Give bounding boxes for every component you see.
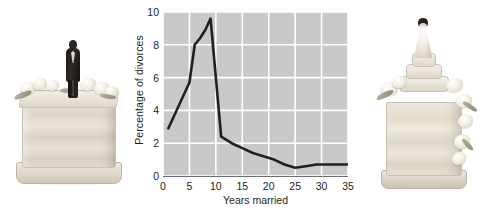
y-tick-label: 0: [153, 170, 159, 182]
plot-area: 0246810 05101520253035: [163, 12, 348, 176]
flower-icon: [452, 152, 466, 165]
x-tick-label: 0: [160, 180, 166, 192]
flower-icon: [458, 114, 473, 128]
flower-icon: [33, 78, 47, 90]
bride-veil: [412, 26, 434, 56]
x-tick-label: 15: [236, 180, 248, 192]
figure: Percentage of divorces 0246810 051015202…: [0, 0, 482, 216]
gridlines: [163, 12, 348, 176]
groom-figurine: [66, 40, 80, 98]
x-tick-label: 35: [342, 180, 354, 192]
bride-cake-photo: [370, 10, 482, 200]
y-tick-label: 8: [153, 39, 159, 51]
y-tick-label: 2: [153, 137, 159, 149]
flower-icon: [446, 78, 463, 92]
groom-legs: [68, 80, 78, 98]
y-axis-title: Percentage of divorces: [133, 15, 145, 165]
y-tick-label: 6: [153, 72, 159, 84]
x-tick-label: 30: [316, 180, 328, 192]
groom-cake-photo: [8, 14, 130, 194]
y-tick-label: 4: [153, 104, 159, 116]
divorce-rate-chart: Percentage of divorces 0246810 051015202…: [120, 6, 360, 210]
cake-body: [386, 102, 462, 176]
x-tick-label: 5: [187, 180, 193, 192]
x-tick-label: 10: [210, 180, 222, 192]
x-axis-title: Years married: [163, 194, 348, 206]
y-tick-label: 10: [147, 6, 159, 18]
x-tick-label: 25: [289, 180, 301, 192]
x-axis-line: [163, 176, 348, 177]
x-tick-label: 20: [263, 180, 275, 192]
plot-svg: [163, 12, 348, 176]
bride-figurine: [411, 18, 435, 58]
cake-body: [22, 100, 116, 168]
